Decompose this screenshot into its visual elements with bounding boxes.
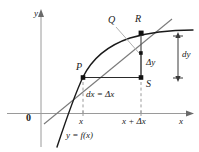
y-axis-arrow-icon xyxy=(38,9,44,17)
tick-label-x: x xyxy=(79,117,83,126)
x-axis-label: x xyxy=(179,117,183,126)
point-label-P: P xyxy=(76,62,82,72)
figure-graphics xyxy=(0,0,199,152)
point-S-marker xyxy=(139,75,144,80)
tangent-line xyxy=(44,19,172,124)
y-axis-label: y xyxy=(34,9,38,18)
point-R-marker xyxy=(139,31,144,36)
point-P-marker xyxy=(81,75,86,80)
q-leader-line xyxy=(116,27,139,53)
point-label-Q: Q xyxy=(108,15,115,25)
point-Q-marker xyxy=(139,51,143,55)
point-label-R: R xyxy=(135,14,141,24)
y-axis xyxy=(38,9,44,147)
x-axis xyxy=(7,111,194,117)
dy-label: dy xyxy=(182,50,191,59)
tick-label-x-plus-delta-x: x + Δx xyxy=(122,117,146,126)
point-label-S: S xyxy=(146,79,151,89)
differentials-figure: y x 0 x x + Δx P Q R S Δy dy dx = Δx y =… xyxy=(0,0,199,152)
point-markers xyxy=(81,31,144,80)
curve-equation-label: y = f(x) xyxy=(66,131,93,140)
x-axis-arrow-icon xyxy=(186,111,194,117)
dx-equals-delta-x-label: dx = Δx xyxy=(86,90,114,99)
delta-y-label: Δy xyxy=(146,58,155,67)
origin-label: 0 xyxy=(26,113,31,123)
